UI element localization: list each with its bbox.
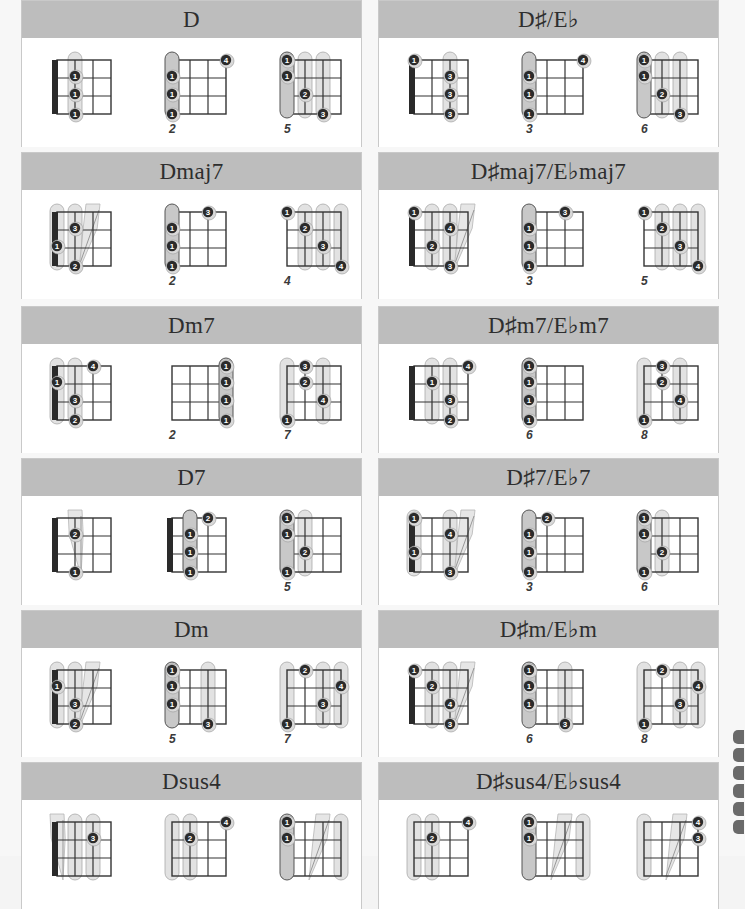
- chord-diagram: 1333: [394, 38, 484, 147]
- chord-title: D♯/E♭: [379, 1, 718, 38]
- svg-text:4: 4: [696, 262, 701, 271]
- finger-dot: 1: [69, 70, 83, 84]
- svg-text:1: 1: [527, 378, 532, 387]
- svg-text:4: 4: [581, 56, 586, 65]
- chord-diagram: 11116: [509, 344, 599, 453]
- finger-dot: 3: [444, 260, 458, 274]
- side-tab[interactable]: [733, 784, 744, 798]
- finger-dot: 3: [674, 240, 688, 254]
- svg-text:1: 1: [170, 666, 175, 675]
- svg-text:1: 1: [285, 56, 290, 65]
- finger-dot: 3: [674, 698, 688, 712]
- svg-text:1: 1: [642, 416, 647, 425]
- finger-dot: 1: [166, 222, 180, 236]
- finger-dot: 1: [523, 70, 537, 84]
- finger-dot: 1: [220, 414, 234, 428]
- svg-text:4: 4: [224, 818, 229, 827]
- svg-text:2: 2: [73, 720, 78, 729]
- finger-dot: 1: [408, 206, 422, 220]
- chord-diagram: 11: [267, 800, 357, 909]
- fret-position-label: 2: [169, 122, 176, 136]
- finger-dot: 1: [281, 414, 295, 428]
- finger-dot: 2: [541, 512, 555, 526]
- chord-panel: Dsus432411: [21, 762, 362, 909]
- chord-title: Dmaj7: [22, 153, 361, 190]
- svg-text:1: 1: [188, 548, 193, 557]
- finger-dot: 3: [202, 718, 216, 732]
- svg-text:4: 4: [339, 682, 344, 691]
- svg-text:3: 3: [448, 720, 453, 729]
- chord-title: D♯sus4/E♭sus4: [379, 763, 718, 800]
- finger-dot: 3: [87, 832, 101, 846]
- finger-dot: 4: [444, 528, 458, 542]
- side-tab[interactable]: [733, 730, 744, 744]
- finger-dot: 1: [51, 376, 65, 390]
- svg-text:3: 3: [321, 242, 326, 251]
- chord-diagrams: 32411: [22, 800, 361, 909]
- fret-position-label: 6: [641, 122, 648, 136]
- chord-diagrams: 21111211125: [22, 496, 361, 605]
- finger-dot: 3: [444, 108, 458, 122]
- finger-dot: 2: [299, 88, 313, 102]
- svg-text:1: 1: [642, 72, 647, 81]
- side-tab-strip[interactable]: [732, 726, 745, 856]
- finger-dot: 2: [426, 240, 440, 254]
- finger-dot: 2: [69, 260, 83, 274]
- svg-text:2: 2: [660, 666, 665, 675]
- finger-dot: 3: [317, 698, 331, 712]
- svg-text:1: 1: [170, 72, 175, 81]
- finger-dot: 1: [69, 108, 83, 122]
- svg-text:1: 1: [412, 514, 417, 523]
- chord-diagram: 11125: [267, 496, 357, 605]
- chord-diagram: 132: [37, 648, 127, 757]
- svg-text:1: 1: [170, 242, 175, 251]
- svg-text:1: 1: [527, 834, 532, 843]
- finger-dot: 2: [426, 680, 440, 694]
- svg-text:1: 1: [412, 666, 417, 675]
- finger-dot: 4: [444, 698, 458, 712]
- side-tab[interactable]: [733, 820, 744, 834]
- svg-text:1: 1: [527, 224, 532, 233]
- finger-dot: 4: [220, 816, 234, 830]
- svg-text:2: 2: [73, 530, 78, 539]
- finger-dot: 4: [444, 222, 458, 236]
- finger-dot: 1: [166, 698, 180, 712]
- svg-text:2: 2: [303, 666, 308, 675]
- chord-diagrams: 11431112311126: [379, 496, 718, 605]
- finger-dot: 1: [166, 680, 180, 694]
- finger-dot: 1: [638, 414, 652, 428]
- chord-diagram: 11135: [152, 648, 242, 757]
- svg-text:1: 1: [285, 568, 290, 577]
- finger-dot: 1: [281, 816, 295, 830]
- side-tab[interactable]: [733, 748, 744, 762]
- svg-text:2: 2: [303, 224, 308, 233]
- finger-dot: 1: [281, 528, 295, 542]
- finger-dot: 4: [674, 394, 688, 408]
- svg-text:1: 1: [412, 208, 417, 217]
- finger-dot: 1: [523, 414, 537, 428]
- svg-text:3: 3: [696, 834, 701, 843]
- chord-diagram: 11: [509, 800, 599, 909]
- chord-diagrams: 12431113312345: [379, 190, 718, 299]
- finger-dot: 1: [166, 70, 180, 84]
- chord-diagram: 11236: [624, 38, 714, 147]
- finger-dot: 1: [184, 528, 198, 542]
- svg-text:4: 4: [91, 362, 96, 371]
- fret-position-label: 5: [169, 732, 176, 746]
- finger-dot: 1: [166, 260, 180, 274]
- svg-text:1: 1: [412, 56, 417, 65]
- svg-text:1: 1: [73, 90, 78, 99]
- svg-text:1: 1: [170, 682, 175, 691]
- svg-text:4: 4: [321, 396, 326, 405]
- side-tab[interactable]: [733, 802, 744, 816]
- svg-text:1: 1: [55, 378, 60, 387]
- svg-text:2: 2: [660, 224, 665, 233]
- chord-diagram: 1112: [152, 496, 242, 605]
- side-tab[interactable]: [733, 766, 744, 780]
- chord-diagram: 21: [37, 496, 127, 605]
- svg-text:1: 1: [170, 700, 175, 709]
- finger-dot: 1: [166, 108, 180, 122]
- fret-position-label: 7: [284, 428, 291, 442]
- finger-dot: 3: [299, 360, 313, 374]
- svg-text:4: 4: [696, 818, 701, 827]
